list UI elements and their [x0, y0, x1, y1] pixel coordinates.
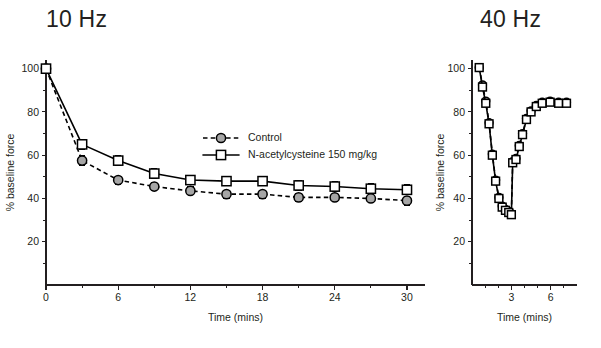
legend-marker-circle	[216, 133, 225, 142]
y-tick-label: 40	[453, 192, 465, 204]
data-point-square	[482, 99, 490, 107]
y-axis-title: % baseline force	[434, 134, 446, 212]
data-point-square	[523, 116, 531, 124]
data-point-square	[492, 177, 500, 185]
data-point-square	[515, 143, 523, 151]
series-nac	[41, 64, 411, 195]
panel-title-40hz: 40 Hz	[480, 6, 541, 33]
x-tick-label: 12	[185, 291, 197, 303]
data-point-square	[519, 131, 527, 139]
data-point-square	[475, 64, 483, 72]
data-point-circle	[77, 156, 86, 165]
data-point-square	[563, 99, 571, 107]
x-axis-title: Time (mins)	[208, 311, 263, 323]
y-tick-label: 40	[27, 192, 39, 204]
data-point-circle	[330, 193, 339, 202]
y-tick-label: 60	[27, 149, 39, 161]
x-axis-title: Time (mins)	[497, 311, 552, 323]
data-point-circle	[258, 190, 267, 199]
legend-entry: Control	[203, 131, 282, 143]
data-point-square	[546, 98, 554, 106]
data-point-square	[330, 182, 339, 191]
x-tick-label: 6	[115, 291, 121, 303]
data-point-circle	[294, 193, 303, 202]
data-point-square	[294, 181, 303, 190]
data-point-square	[495, 195, 503, 203]
data-point-circle	[402, 196, 411, 205]
data-point-square	[186, 175, 195, 184]
x-tick-label: 3	[508, 291, 514, 303]
series-line	[479, 68, 566, 215]
legend: ControlN-acetylcysteine 150 mg/kg	[203, 131, 377, 160]
axes: 204060801000612182430Time (mins)% baseli…	[4, 60, 425, 323]
data-point-square	[512, 156, 520, 164]
x-tick-label: 18	[257, 291, 269, 303]
data-point-square	[150, 169, 159, 178]
y-tick-label: 20	[453, 235, 465, 247]
legend-marker-square	[216, 150, 225, 159]
data-point-square	[538, 99, 546, 107]
x-tick-label: 30	[401, 291, 413, 303]
series-control	[475, 64, 570, 218]
panel-40hz: 40 Hz 2040608010036Time (mins)% baseline…	[432, 0, 601, 348]
y-axis-title: % baseline force	[4, 134, 16, 212]
panel-title-10hz: 10 Hz	[46, 6, 107, 33]
data-point-square	[258, 177, 267, 186]
series-line	[46, 69, 407, 190]
chart-40hz: 2040608010036Time (mins)% baseline force	[432, 0, 601, 348]
data-point-square	[114, 156, 123, 165]
y-tick-label: 60	[453, 149, 465, 161]
panel-10hz: 10 Hz 204060801000612182430Time (mins)% …	[0, 0, 432, 348]
data-point-circle	[222, 190, 231, 199]
data-point-square	[41, 64, 50, 73]
data-point-circle	[186, 186, 195, 195]
y-tick-label: 20	[27, 235, 39, 247]
data-point-circle	[150, 182, 159, 191]
data-point-square	[507, 211, 515, 219]
chart-10hz: 204060801000612182430Time (mins)% baseli…	[0, 0, 432, 348]
legend-entry: N-acetylcysteine 150 mg/kg	[203, 148, 377, 160]
y-tick-label: 100	[21, 62, 39, 74]
data-point-square	[77, 140, 86, 149]
x-tick-label: 0	[43, 291, 49, 303]
legend-label: N-acetylcysteine 150 mg/kg	[248, 148, 377, 160]
data-point-square	[366, 184, 375, 193]
data-point-square	[479, 83, 487, 91]
x-tick-label: 24	[329, 291, 341, 303]
x-tick-label: 6	[548, 291, 554, 303]
data-point-square	[485, 120, 493, 128]
legend-label: Control	[248, 131, 282, 143]
data-point-circle	[366, 194, 375, 203]
data-point-square	[488, 151, 496, 159]
data-point-square	[555, 99, 563, 107]
y-tick-label: 80	[27, 106, 39, 118]
data-point-square	[222, 177, 231, 186]
y-tick-label: 80	[453, 106, 465, 118]
data-point-circle	[114, 175, 123, 184]
y-tick-label: 100	[447, 62, 465, 74]
series-nac	[475, 64, 570, 219]
figure-root: 10 Hz 204060801000612182430Time (mins)% …	[0, 0, 601, 348]
series-line	[479, 68, 566, 214]
data-point-square	[402, 185, 411, 194]
